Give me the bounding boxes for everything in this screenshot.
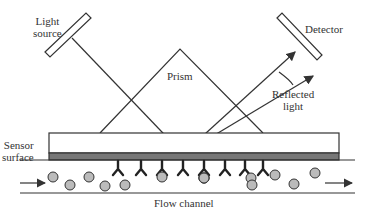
light-source-label-line2: source bbox=[33, 27, 62, 39]
detector bbox=[277, 13, 322, 60]
sensor-layer bbox=[49, 153, 339, 160]
reflected-light-label: Reflected light bbox=[272, 88, 314, 112]
detector-label: Detector bbox=[305, 23, 343, 35]
sensor-surface-label: Sensor surface bbox=[2, 139, 34, 163]
sensor-surface-label-line2: surface bbox=[2, 151, 34, 163]
sensor-glass bbox=[49, 133, 339, 153]
light-source-label: Light source bbox=[33, 15, 62, 39]
prism-label: Prism bbox=[167, 70, 193, 82]
sensor-surface-label-line1: Sensor bbox=[2, 139, 34, 151]
antibodies bbox=[113, 161, 268, 175]
reflected-light-label-line1: Reflected bbox=[272, 88, 314, 100]
reflected-light-label-line2: light bbox=[272, 100, 314, 112]
light-source-label-line1: Light bbox=[33, 15, 62, 27]
angle-arc bbox=[279, 72, 293, 85]
flow-channel-label: Flow channel bbox=[154, 197, 214, 209]
